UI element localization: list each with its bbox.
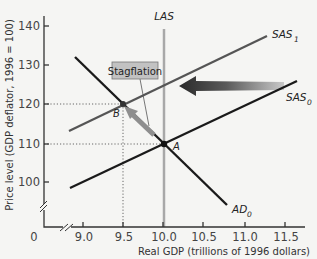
- svg-text:AD: AD: [231, 203, 247, 215]
- svg-text:120: 120: [18, 97, 40, 111]
- movement-arrow-a-to-b: [124, 106, 154, 135]
- x-tick-labels: 9.0 9.5 10.0 10.5 11.0 11.5: [75, 230, 299, 244]
- svg-text:0: 0: [307, 98, 312, 107]
- svg-text:100: 100: [18, 175, 40, 189]
- point-a-label: A: [172, 141, 180, 152]
- y-tick-labels: 140 130 120 110 100: [18, 19, 40, 189]
- svg-text:1: 1: [294, 35, 299, 44]
- sas-shift-arrow: [179, 76, 284, 96]
- origin-label: 0: [30, 230, 37, 244]
- svg-text:SAS: SAS: [286, 91, 307, 103]
- svg-text:10.5: 10.5: [191, 230, 217, 244]
- svg-text:110: 110: [18, 137, 40, 151]
- svg-text:11.0: 11.0: [232, 230, 258, 244]
- point-a-marker: [161, 141, 167, 147]
- svg-text:130: 130: [18, 58, 40, 72]
- point-b-label: B: [113, 108, 120, 119]
- stagflation-leader-line: [140, 79, 149, 126]
- x-axis-title: Real GDP (trillions of 1996 dollars): [138, 246, 310, 257]
- stagflation-label: Stagflation: [108, 66, 162, 77]
- svg-text:140: 140: [18, 19, 40, 33]
- svg-text:9.0: 9.0: [75, 230, 93, 244]
- svg-text:11.5: 11.5: [273, 230, 299, 244]
- sas1-label: SAS 1: [272, 28, 299, 44]
- svg-text:9.5: 9.5: [115, 230, 133, 244]
- point-b-marker: [120, 101, 126, 107]
- ad0-label: AD 0: [231, 203, 252, 219]
- axes: [44, 16, 305, 227]
- las-label: LAS: [154, 10, 174, 22]
- reference-lines: [44, 104, 164, 227]
- sas0-curve: [70, 81, 297, 188]
- y-axis: [44, 16, 305, 227]
- svg-text:SAS: SAS: [272, 28, 293, 40]
- chart: Stagflation B A LAS SAS 1 SAS 0 AD 0: [0, 0, 317, 259]
- svg-text:0: 0: [247, 210, 252, 219]
- sas0-label: SAS 0: [286, 91, 312, 107]
- y-axis-title: Price level (GDP deflator, 1996 = 100): [4, 19, 15, 211]
- svg-text:10.0: 10.0: [151, 230, 177, 244]
